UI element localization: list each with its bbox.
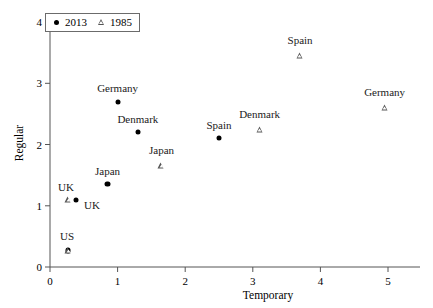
scatter-chart: 0 1 2 3 4 0 1 2 3 4 5 Temporary Regular … <box>0 0 433 308</box>
data-point-denmark-1985[interactable] <box>255 125 264 134</box>
legend-label-2013: 2013 <box>65 16 87 28</box>
x-tick-label-1: 1 <box>111 275 125 287</box>
y-axis-title: Regular <box>13 108 25 178</box>
data-point-uk-1985[interactable] <box>64 195 73 204</box>
y-tick-label-0: 0 <box>28 261 42 273</box>
legend: 2013 1985 <box>45 13 140 32</box>
data-point-germany-2013[interactable] <box>113 97 122 106</box>
data-point-spain-2013[interactable] <box>215 134 224 143</box>
plot-area: 0 1 2 3 4 0 1 2 3 4 5 Temporary Regular … <box>0 0 433 308</box>
x-tick-label-5: 5 <box>381 275 395 287</box>
axes-layer <box>0 0 433 308</box>
data-point-us-1985[interactable] <box>64 246 73 255</box>
data-point-denmark-2013[interactable] <box>133 128 142 137</box>
filled-circle-icon <box>52 18 61 27</box>
y-tick-label-2: 2 <box>28 139 42 151</box>
y-tick-label-4: 4 <box>28 16 42 28</box>
x-tick-label-2: 2 <box>178 275 192 287</box>
x-tick-label-0: 0 <box>43 275 57 287</box>
legend-entry-2013: 2013 <box>52 16 87 28</box>
x-axis-title: Temporary <box>218 289 318 301</box>
open-triangle-icon <box>97 18 106 27</box>
data-point-spain-1985[interactable] <box>296 51 305 60</box>
x-tick-label-3: 3 <box>246 275 260 287</box>
data-point-japan-1985[interactable] <box>157 161 166 170</box>
x-tick-label-4: 4 <box>313 275 327 287</box>
y-tick-label-1: 1 <box>28 200 42 212</box>
data-point-japan-2013[interactable] <box>103 180 112 189</box>
legend-label-1985: 1985 <box>110 16 132 28</box>
data-point-germany-1985[interactable] <box>380 103 389 112</box>
y-tick-label-3: 3 <box>28 77 42 89</box>
legend-entry-1985: 1985 <box>97 16 132 28</box>
